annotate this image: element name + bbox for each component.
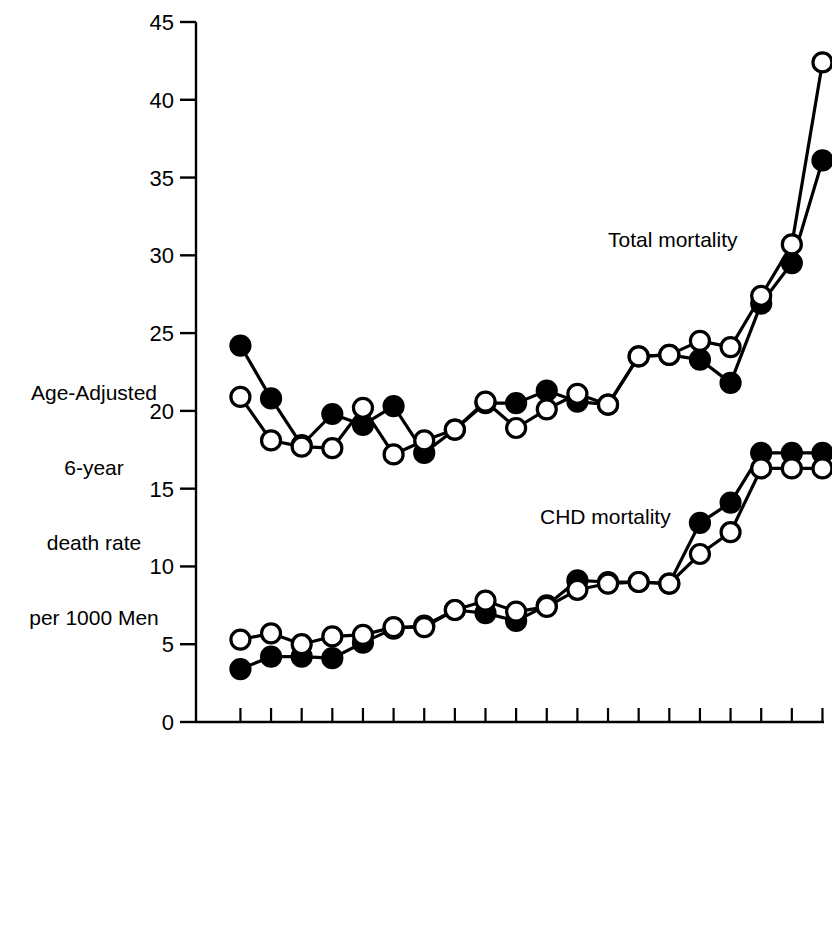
data-point-open <box>507 602 526 621</box>
data-point-open <box>752 286 771 305</box>
y-axis-title: Age-Adjusted 6-year death rate per 1000 … <box>6 330 182 680</box>
data-point-open <box>415 431 434 450</box>
y-axis-title-line-3: death rate <box>6 530 182 555</box>
data-point-open <box>690 331 709 350</box>
data-point-filled <box>323 649 342 668</box>
data-point-open <box>292 635 311 654</box>
data-point-open <box>507 419 526 438</box>
data-point-open <box>599 574 618 593</box>
data-point-filled <box>262 647 281 666</box>
data-point-open <box>568 384 587 403</box>
y-axis-tick-label: 0 <box>162 710 174 735</box>
data-point-filled <box>262 389 281 408</box>
data-point-open <box>445 601 464 620</box>
data-point-open <box>292 437 311 456</box>
data-point-open <box>782 235 801 254</box>
data-point-open <box>629 573 648 592</box>
data-point-open <box>445 420 464 439</box>
chart-series-layer <box>231 53 832 679</box>
data-point-open <box>323 439 342 458</box>
chart-figure: 051015202530354045 Age-Adjusted 6-year d… <box>0 0 832 941</box>
data-point-filled <box>782 254 801 273</box>
data-point-open <box>476 591 495 610</box>
series-markers <box>231 443 832 678</box>
data-point-open <box>415 618 434 637</box>
series-label-total-mortality: Total mortality <box>608 228 738 252</box>
y-axis-tick-label: 40 <box>150 88 174 113</box>
data-point-open <box>568 580 587 599</box>
data-point-open <box>537 400 556 419</box>
data-point-open <box>721 523 740 542</box>
data-point-open <box>752 459 771 478</box>
y-axis-tick-label: 30 <box>150 243 174 268</box>
data-point-open <box>476 392 495 411</box>
data-point-open <box>690 545 709 564</box>
data-point-filled <box>231 660 250 679</box>
data-point-open <box>353 398 372 417</box>
y-axis-title-line-2: 6-year <box>6 455 182 480</box>
data-point-open <box>813 459 832 478</box>
data-point-filled <box>721 493 740 512</box>
series-markers <box>231 53 832 464</box>
series-markers <box>231 459 832 654</box>
data-point-open <box>721 338 740 357</box>
data-point-open <box>231 387 250 406</box>
data-point-filled <box>323 405 342 424</box>
y-axis-title-line-4: per 1000 Men <box>6 605 182 630</box>
data-point-open <box>660 345 679 364</box>
y-axis-tick-label: 45 <box>150 10 174 35</box>
data-point-filled <box>384 397 403 416</box>
data-point-open <box>599 395 618 414</box>
data-point-open <box>537 597 556 616</box>
data-point-filled <box>537 381 556 400</box>
data-point-open <box>231 630 250 649</box>
data-point-filled <box>813 151 832 170</box>
x-axis-ticks <box>240 708 822 722</box>
data-point-open <box>353 625 372 644</box>
data-point-open <box>384 445 403 464</box>
series-markers <box>231 151 832 462</box>
data-point-open <box>782 459 801 478</box>
data-point-open <box>660 574 679 593</box>
y-axis-title-line-1: Age-Adjusted <box>6 380 182 405</box>
data-point-filled <box>231 336 250 355</box>
data-point-open <box>262 624 281 643</box>
data-point-open <box>813 53 832 72</box>
data-point-filled <box>721 373 740 392</box>
data-point-open <box>323 627 342 646</box>
data-point-filled <box>507 394 526 413</box>
data-point-open <box>629 347 648 366</box>
series-label-chd-mortality: CHD mortality <box>540 505 671 529</box>
y-axis-tick-label: 35 <box>150 166 174 191</box>
chart-axes: 051015202530354045 <box>150 10 824 735</box>
data-point-filled <box>690 513 709 532</box>
data-point-open <box>262 431 281 450</box>
y-axis-ticks <box>180 22 196 722</box>
data-point-filled <box>690 350 709 369</box>
data-point-open <box>384 618 403 637</box>
